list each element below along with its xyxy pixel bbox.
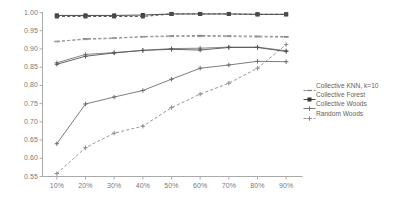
legend-marker-icon <box>303 81 316 90</box>
series-random-woods <box>55 42 289 175</box>
legend-item-label: Collective KNN, k=10 <box>316 81 378 90</box>
y-axis-tick-label: 0.90 <box>8 45 38 53</box>
y-axis-tick-label: 0.55 <box>8 173 38 181</box>
legend-item-label: Collective Forest <box>316 90 365 99</box>
x-axis-tick-label: 90% <box>272 182 300 190</box>
x-axis-tick-label: 80% <box>244 182 272 190</box>
y-axis-tick-label: 1.00 <box>8 9 38 17</box>
y-axis-tick-label: 0.65 <box>8 136 38 144</box>
legend-marker-icon <box>303 109 316 118</box>
legend-marker-icon <box>303 99 316 108</box>
y-axis-tick-label: 0.60 <box>8 154 38 162</box>
legend-item[interactable]: Collective Forest <box>303 90 403 99</box>
y-axis-tick-label: 0.85 <box>8 63 38 71</box>
x-axis-tick-label: 70% <box>215 182 243 190</box>
series-overlay-mid-dashed <box>54 37 288 42</box>
x-axis-tick-label: 60% <box>186 182 214 190</box>
legend-marker-icon <box>303 90 316 99</box>
y-axis-tick-label: 0.80 <box>8 81 38 89</box>
y-axis-tick-label: 0.70 <box>8 118 38 126</box>
chart-legend: Collective KNN, k=10Collective ForestCol… <box>303 81 403 118</box>
legend-item[interactable]: Random Woods <box>303 109 403 118</box>
y-axis-tick-label: 0.75 <box>8 100 38 108</box>
legend-item-label: Random Woods <box>316 109 363 118</box>
x-axis-tick-label: 20% <box>72 182 100 190</box>
legend-item-label: Collective Woods <box>316 99 367 108</box>
x-axis-tick-label: 30% <box>100 182 128 190</box>
series-collective-woods <box>55 59 289 146</box>
legend-item[interactable]: Collective KNN, k=10 <box>303 81 403 90</box>
x-axis-tick-label: 10% <box>43 182 71 190</box>
legend-item[interactable]: Collective Woods <box>303 99 403 108</box>
line-chart: 1.000.950.900.850.800.750.700.650.600.55… <box>0 0 403 203</box>
y-axis-tick-label: 0.95 <box>8 27 38 35</box>
x-axis-tick-label: 50% <box>158 182 186 190</box>
x-axis-tick-label: 40% <box>129 182 157 190</box>
series-overlay-solid-lower <box>55 45 289 66</box>
series-lines <box>54 12 288 176</box>
